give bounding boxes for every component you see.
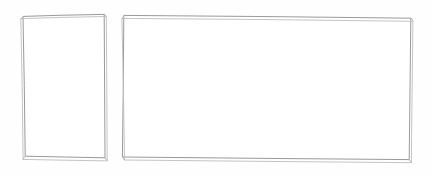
- sketch-canvas: [0, 0, 432, 176]
- sketch-surface: [0, 0, 432, 176]
- landscape-card-shape[interactable]: [122, 15, 413, 163]
- portrait-card-surface[interactable]: [23, 14, 105, 158]
- landscape-card-surface[interactable]: [122, 15, 411, 160]
- portrait-card-shape[interactable]: [21, 14, 107, 161]
